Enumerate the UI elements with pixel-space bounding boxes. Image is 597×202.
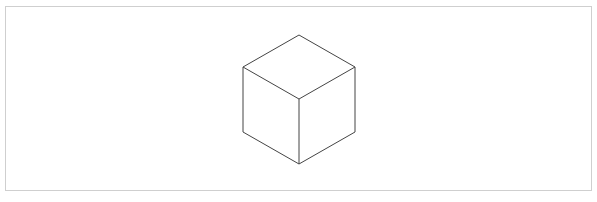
cube-diagram <box>0 0 597 202</box>
cube-inner-edges <box>243 67 355 99</box>
